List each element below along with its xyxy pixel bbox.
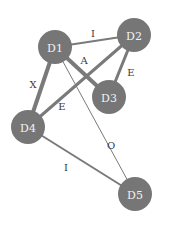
- node-d3-label: D3: [101, 92, 117, 105]
- edge-label-d4-d5: I: [64, 162, 68, 173]
- node-d2-label: D2: [126, 30, 142, 43]
- node-d5-label: D5: [127, 189, 143, 202]
- edge-d4-d5: [28, 127, 135, 194]
- node-d5: D5: [118, 177, 152, 211]
- edge-label-d2-d3: E: [127, 67, 134, 78]
- graph-diagram: I A X O E E I D1 D2 D3 D4 D5: [0, 0, 181, 227]
- edge-label-d1-d4: X: [29, 79, 37, 90]
- edge-label-d1-d5: O: [107, 140, 115, 151]
- node-d1-label: D1: [47, 42, 63, 55]
- node-d4: D4: [11, 110, 45, 144]
- node-d2: D2: [117, 18, 151, 52]
- edge-label-d2-d4: E: [58, 101, 65, 112]
- node-d1: D1: [38, 30, 72, 64]
- nodes-group: D1 D2 D3 D4 D5: [11, 18, 152, 211]
- edge-label-d1-d2: I: [91, 28, 95, 39]
- node-d3: D3: [92, 80, 126, 114]
- node-d4-label: D4: [20, 122, 36, 135]
- edge-label-d1-d3: A: [79, 55, 88, 66]
